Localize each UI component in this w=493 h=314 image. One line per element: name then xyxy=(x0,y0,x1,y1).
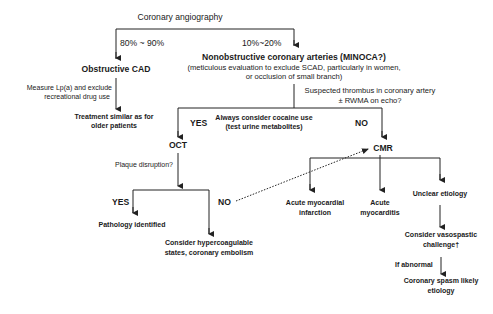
node-acute-myocarditis-1: Acute xyxy=(370,198,389,208)
node-unclear-etiology: Unclear etiology xyxy=(413,189,467,199)
node-hypercoagulable-1: Consider hypercoagulable xyxy=(165,238,253,248)
question-thrombus-2: ± RWMA on echo? xyxy=(338,96,401,106)
label-no-plaque: NO xyxy=(218,197,231,207)
note-cocaine-2: (test urine metabolites) xyxy=(225,122,302,132)
node-obstructive-cad: Obstructive CAD xyxy=(82,64,151,74)
question-plaque-disruption: Plaque disruption? xyxy=(115,160,173,170)
node-nonobstructive: Nonobstructive coronary arteries (MINOCA… xyxy=(202,52,386,62)
node-acute-myocarditis-2: myocarditis xyxy=(360,208,399,218)
branch-label-nonobstructive-pct: 10%~20% xyxy=(242,38,281,48)
root-node-coronary-angiography: Coronary angiography xyxy=(137,12,222,22)
label-yes-thrombus: YES xyxy=(190,118,207,128)
node-vasospastic-1: Consider vasospastic xyxy=(405,230,477,240)
label-yes-plaque: YES xyxy=(112,197,129,207)
question-thrombus-1: Suspected thrombus in coronary artery xyxy=(305,86,436,96)
branch-label-obstructive-pct: 80% ~ 90% xyxy=(120,38,164,48)
node-coronary-spasm-1: Coronary spasm likely xyxy=(404,276,479,286)
node-acute-mi-2: infarction xyxy=(299,208,331,218)
label-no-thrombus: NO xyxy=(355,118,368,128)
label-measure-lpa-2: recreational drug use xyxy=(44,92,110,102)
node-oct: OCT xyxy=(169,140,187,150)
node-hypercoagulable-2: states, coronary embolism xyxy=(165,248,254,258)
node-vasospastic-2: challenge† xyxy=(423,240,459,250)
node-nonobstructive-sub-2: or occlusion of small branch) xyxy=(246,72,343,82)
node-coronary-spasm-2: etiology xyxy=(428,286,455,296)
label-if-abnormal: If abnormal xyxy=(395,260,433,270)
node-acute-mi-1: Acute myocardial xyxy=(286,198,344,208)
node-cmr: CMR xyxy=(373,143,393,153)
node-pathology-identified: Pathology identified xyxy=(99,220,166,230)
node-treatment-similar-2: older patients xyxy=(91,121,137,131)
